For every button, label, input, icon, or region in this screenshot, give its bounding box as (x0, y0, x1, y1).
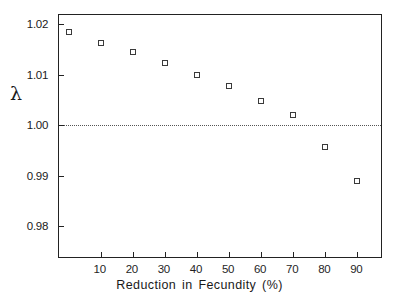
y-tick-label: 0.99 (0, 166, 52, 184)
data-point-marker (258, 98, 264, 104)
data-point-marker (226, 83, 232, 89)
data-point-marker (98, 40, 104, 46)
data-point-marker (130, 49, 136, 55)
y-tick-label: 1.00 (0, 115, 52, 133)
x-tick-label: 20 (126, 263, 138, 275)
x-axis-title: Reduction in Fecundity (%) (0, 278, 399, 292)
y-tick-label: 1.02 (0, 14, 52, 32)
y-axis-title: λ (10, 84, 22, 103)
data-point-marker (322, 144, 328, 150)
plot-area (58, 14, 382, 258)
x-tick-label: 60 (254, 263, 266, 275)
data-point-marker (194, 72, 200, 78)
x-tick-label: 90 (350, 263, 362, 275)
data-point-marker (354, 178, 360, 184)
x-tick-label: 30 (158, 263, 170, 275)
y-tick-label: 0.98 (0, 216, 52, 234)
data-point-marker (290, 112, 296, 118)
x-tick-label: 70 (286, 263, 298, 275)
data-points (59, 15, 381, 257)
x-tick-label: 40 (190, 263, 202, 275)
x-tick-label: 80 (318, 263, 330, 275)
x-tick-label: 50 (222, 263, 234, 275)
data-point-marker (66, 29, 72, 35)
x-tick-label: 10 (94, 263, 106, 275)
data-point-marker (162, 60, 168, 66)
chart-figure: 0.980.991.001.011.02 102030405060708090 … (0, 0, 399, 301)
y-tick-label: 1.01 (0, 65, 52, 83)
